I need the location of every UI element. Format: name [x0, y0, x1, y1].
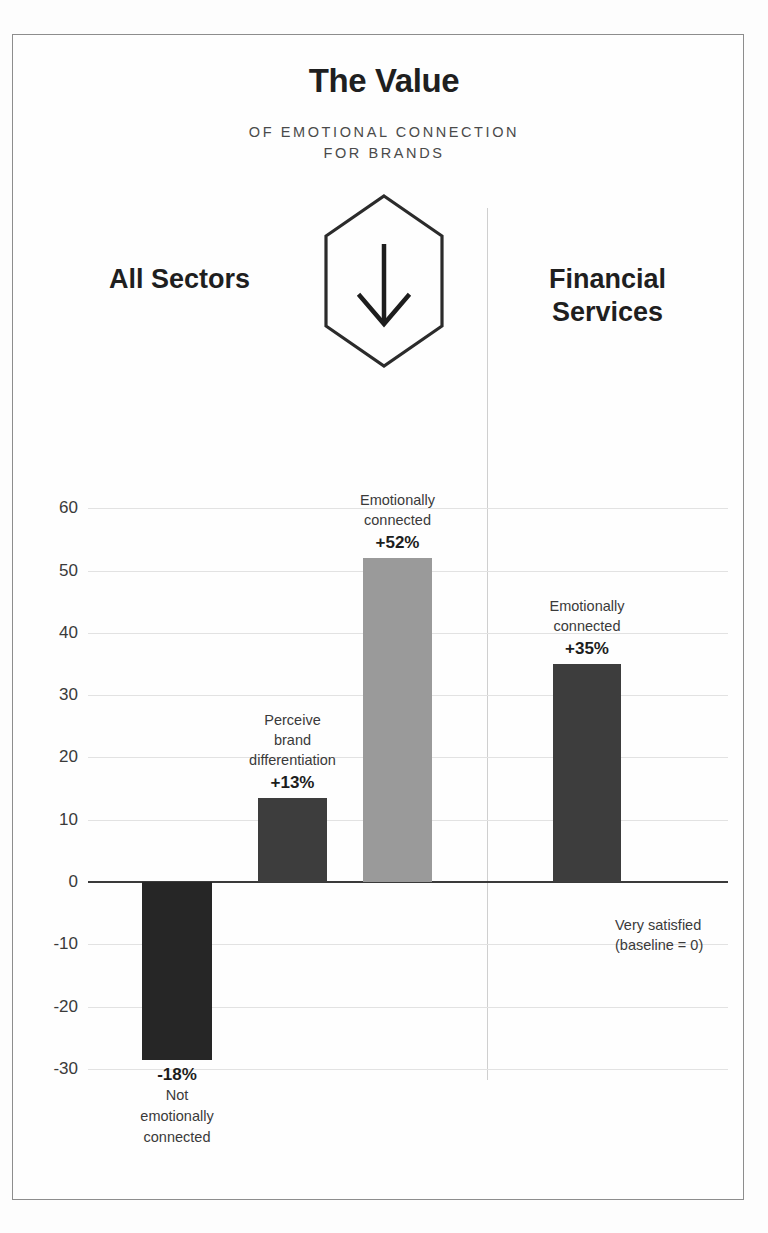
group-divider — [487, 208, 488, 1080]
y-axis-tick-label: 0 — [16, 872, 78, 892]
bar[interactable] — [363, 558, 432, 882]
bar[interactable] — [258, 798, 327, 882]
baseline-line-2: (baseline = 0) — [615, 937, 703, 953]
bar-label-line: Not — [166, 1087, 189, 1103]
y-axis-tick-label: -10 — [16, 934, 78, 954]
y-axis-tick-label: 30 — [16, 685, 78, 705]
bar-value-label: +35% — [492, 639, 682, 659]
bar-label-line: emotionally — [140, 1108, 213, 1124]
baseline-line-1: Very satisfied — [615, 917, 701, 933]
y-axis-tick-label: 40 — [16, 623, 78, 643]
bar-label-line: connected — [364, 512, 431, 528]
baseline-annotation: Very satisfied (baseline = 0) — [615, 915, 755, 955]
bar-value-label: +52% — [303, 533, 493, 553]
bar[interactable] — [553, 664, 621, 882]
y-axis-tick-label: -20 — [16, 997, 78, 1017]
bar-annotation: Perceivebranddifferentiation+13% — [198, 710, 388, 793]
bar-value-label: +13% — [198, 773, 388, 793]
y-axis-tick-label: 20 — [16, 747, 78, 767]
bar-label-line: Emotionally — [360, 492, 435, 508]
bar-label-line: differentiation — [249, 752, 336, 768]
y-axis-tick-label: 60 — [16, 498, 78, 518]
bar-label-line: Perceive — [264, 712, 320, 728]
bar-annotation: -18%Notemotionallyconnected — [82, 1064, 272, 1148]
y-axis-tick-label: 10 — [16, 810, 78, 830]
bar-value-label: -18% — [82, 1064, 272, 1085]
bar-annotation: Emotionallyconnected+35% — [492, 596, 682, 659]
bar-label-line: connected — [554, 618, 621, 634]
bar-label-line: Emotionally — [550, 598, 625, 614]
bar-chart: 6050403020100-10-20-30-18%Notemotionally… — [0, 0, 768, 1233]
bar-label-line: connected — [144, 1129, 211, 1145]
bar[interactable] — [142, 882, 212, 1060]
bar-label-line: brand — [274, 732, 311, 748]
y-axis-tick-label: -30 — [16, 1059, 78, 1079]
bar-annotation: Emotionallyconnected+52% — [303, 490, 493, 553]
y-axis-tick-label: 50 — [16, 561, 78, 581]
